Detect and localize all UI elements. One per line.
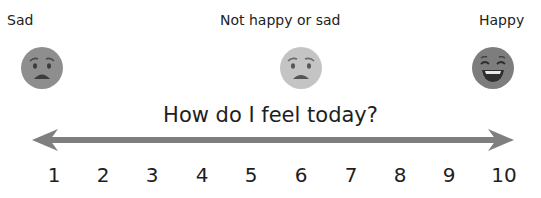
scale-number-5: 5 [231, 163, 271, 187]
double-arrow-icon [28, 128, 518, 152]
scale-number-6: 6 [281, 163, 321, 187]
scale-number-7: 7 [331, 163, 371, 187]
scale-number-8: 8 [380, 163, 420, 187]
scale-title: How do I feel today? [0, 103, 541, 127]
neutral-face-icon [279, 46, 323, 90]
label-happy: Happy [479, 12, 524, 28]
scale-number-3: 3 [132, 163, 172, 187]
label-neutral: Not happy or sad [220, 12, 340, 28]
sad-face-icon [20, 46, 64, 90]
scale-number-2: 2 [83, 163, 123, 187]
scale-number-9: 9 [429, 163, 469, 187]
scale-number-1: 1 [34, 163, 74, 187]
label-sad: Sad [7, 12, 33, 28]
scale-number-10: 10 [484, 163, 524, 187]
scale-number-4: 4 [182, 163, 222, 187]
happy-face-icon [471, 46, 515, 90]
